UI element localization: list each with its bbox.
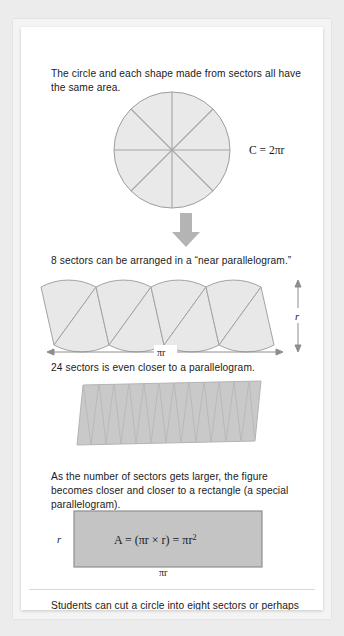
height-arrow-head-top (295, 280, 301, 287)
rectangle-figure: r πr A = (πr × r) = πr2 (21, 509, 323, 581)
circle-svg: C = 2πr (21, 89, 323, 211)
transition-arrow (169, 213, 203, 249)
rectangle-caption: As the number of sectors gets larger, th… (51, 470, 309, 513)
width-label-pi-r: πr (157, 347, 166, 357)
rectangle-svg: r πr A = (πr × r) = πr2 (21, 509, 323, 581)
sector-shapes-group (41, 280, 274, 352)
page-background: The circle and each shape made from sect… (0, 0, 344, 636)
rectangle-height-label-r: r (57, 534, 62, 545)
twentyfour-sectors-caption: 24 sectors is even closer to a parallelo… (51, 361, 309, 375)
worksheet-content: The circle and each shape made from sect… (21, 27, 323, 610)
parallelogram-8-svg: r πr (21, 275, 323, 357)
down-arrow-icon (172, 213, 200, 247)
parallelogram-24-svg (21, 379, 323, 449)
eight-sectors-caption: 8 sectors can be arranged in a “near par… (51, 254, 309, 268)
width-arrow-head-right (276, 349, 283, 355)
height-arrow-head-bottom (295, 345, 301, 352)
circle-figure: C = 2πr (21, 89, 323, 211)
footer-paragraph: Students can cut a circle into eight sec… (51, 599, 311, 610)
eight-sector-parallelogram-figure: r πr (21, 275, 323, 357)
area-formula-text: A = (πr × r) = πr (114, 533, 192, 547)
footer-divider (29, 589, 315, 590)
rectangle-width-label-pi-r: πr (159, 567, 168, 578)
twentyfour-sector-parallelogram-figure (21, 379, 323, 449)
down-arrow-svg (169, 213, 203, 249)
area-formula: A = (πr × r) = πr2 (114, 533, 196, 548)
worksheet-page: The circle and each shape made from sect… (21, 27, 323, 610)
circle-sectors-group (114, 92, 230, 208)
width-arrow-head-left (47, 349, 54, 355)
circumference-label: C = 2πr (249, 144, 284, 156)
area-formula-exponent: 2 (192, 533, 196, 542)
